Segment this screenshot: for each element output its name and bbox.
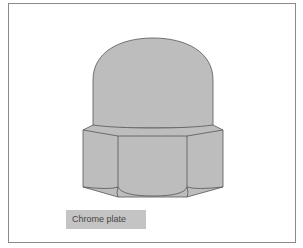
- finish-label-text: Chrome plate: [72, 214, 126, 224]
- finish-label: Chrome plate: [66, 210, 146, 229]
- cap-nut-drawing: [0, 0, 303, 248]
- dome: [93, 38, 213, 128]
